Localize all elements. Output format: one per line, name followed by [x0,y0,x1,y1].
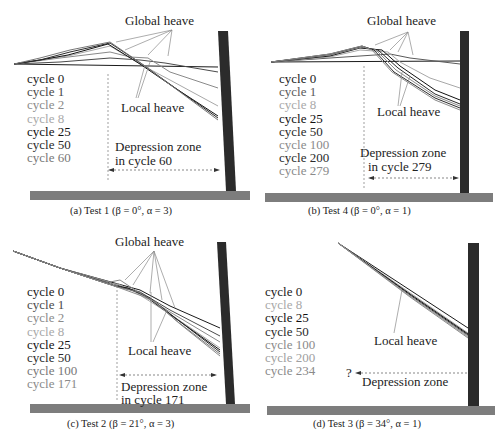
depression-label-line2: in cycle 279 [368,160,432,173]
wall [460,31,469,193]
legend-item: cycle 171 [27,377,77,390]
base-slab [265,193,493,202]
local-heave-label: Local heave [374,334,437,347]
legend-item: cycle 25 [279,112,329,125]
wall [217,242,235,404]
local-heave-label: Local heave [128,344,191,357]
legend-item: cycle 234 [265,364,315,377]
profile-cycle-0 [271,61,460,62]
depression-label-line1: Depression zone [362,375,448,388]
legend-item: cycle 8 [27,112,71,125]
depression-label-line1: Depression zone [115,140,201,153]
legend-item: cycle 279 [279,164,329,177]
local-heave-label: Local heave [377,105,440,118]
panel-c: Global heave Local heave Depression zone… [0,220,250,443]
local-heave-leaders [136,62,150,98]
caption-d: (d) Test 3 (β = 34°, α = 1) [313,418,421,429]
local-heave-label: Local heave [121,101,184,114]
legend-item: cycle 2 [27,311,77,324]
panel-b: Global heave Local heave Depression zone… [250,0,503,220]
base-slab [30,191,250,200]
caption-a: (a) Test 1 (β = 0°, α = 3) [70,205,172,216]
global-heave-label: Global heave [125,14,194,27]
depression-label-line1: Depression zone [360,146,446,159]
legend-c: cycle 0 cycle 1 cycle 2 cycle 8 cycle 25… [27,285,77,391]
question-mark: ? [346,366,352,379]
legend-item: cycle 2 [27,98,71,111]
legend-item: cycle 50 [265,325,315,338]
panel-d: Local heave ? Depression zone cycle 0 cy… [250,220,503,443]
depression-label-line2: in cycle 60 [115,154,172,167]
base-slab [267,406,495,415]
legend-a: cycle 0 cycle 1 cycle 2 cycle 8 cycle 25… [27,72,71,164]
legend-d: cycle 0 cycle 8 cycle 25 cycle 50 cycle … [265,285,315,377]
legend-item: cycle 8 [279,98,329,111]
panel-a: Global heave Local heave Depression zone… [0,0,250,220]
profile-cycle-0 [338,243,468,328]
caption-c: (c) Test 2 (β = 21°, α = 3) [67,418,174,429]
legend-b: cycle 0 cycle 1 cycle 8 cycle 25 cycle 5… [279,72,329,178]
legend-item: cycle 8 [27,325,77,338]
local-heave-leaders [394,290,402,333]
caption-b: (b) Test 4 (β = 0°, α = 1) [308,205,411,216]
depression-label-line2: in cycle 171 [121,393,185,406]
wall [468,243,479,406]
legend-item: cycle 25 [265,311,315,324]
global-heave-label: Global heave [115,235,184,248]
global-heave-label: Global heave [367,14,436,27]
legend-item: cycle 60 [27,151,71,164]
wall [218,31,236,191]
